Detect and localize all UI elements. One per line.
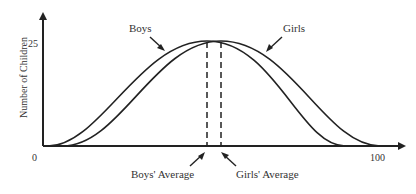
boys-average-label: Boys' Average (131, 168, 194, 180)
girls-average-arrow-icon (221, 152, 236, 166)
girls-arrow-icon (266, 37, 282, 52)
boys-average-arrow-icon (190, 152, 205, 166)
x-tick-0: 0 (32, 152, 37, 163)
girls-label: Girls (283, 22, 305, 34)
x-axis-arrow-icon (398, 142, 406, 150)
chart-canvas (0, 0, 416, 194)
boys-curve (48, 41, 345, 146)
x-tick-100: 100 (370, 152, 385, 163)
boys-label: Boys (129, 22, 152, 34)
y-axis-label: Number of Children (18, 23, 29, 133)
girls-average-label: Girls' Average (236, 168, 299, 180)
y-axis-arrow-icon (39, 12, 47, 20)
y-tick-25: 25 (28, 38, 38, 49)
boys-arrow-icon (150, 37, 165, 51)
